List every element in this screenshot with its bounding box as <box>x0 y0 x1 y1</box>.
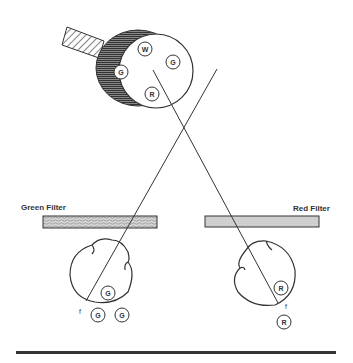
svg-text:G: G <box>118 69 124 76</box>
bottom-rule <box>16 351 336 354</box>
right-inner-circle: R <box>274 281 288 295</box>
svg-text:G: G <box>95 312 101 319</box>
svg-text:G: G <box>105 290 111 297</box>
wheel-circle-g-right: G <box>166 55 180 69</box>
svg-text:R: R <box>281 319 286 326</box>
red-filter-label: Red Filter <box>293 204 330 213</box>
left-outer-circle-2: G <box>115 308 129 322</box>
wheel-circle-w: W <box>138 42 152 56</box>
svg-text:W: W <box>142 46 149 53</box>
wheel-circle-r: R <box>145 87 159 101</box>
light-ray-to-red <box>153 70 278 303</box>
wheel-circle-g-left: G <box>114 65 128 79</box>
red-filter <box>205 216 319 227</box>
svg-text:G: G <box>170 59 176 66</box>
green-filter <box>43 216 157 228</box>
right-outer-circle: R <box>277 315 291 329</box>
green-filter-label: Green Filter <box>21 203 66 212</box>
svg-text:G: G <box>119 312 125 319</box>
left-inner-circle: G <box>101 286 115 300</box>
right-focus-label: f <box>285 303 287 310</box>
right-cell <box>234 241 295 306</box>
color-filter-diagram: W G G R G f G G R f R <box>0 0 353 363</box>
wheel-axle <box>62 27 104 58</box>
svg-text:R: R <box>278 285 283 292</box>
left-outer-circle-1: G <box>91 308 105 322</box>
left-focus-label: f <box>79 308 81 315</box>
svg-text:R: R <box>149 91 154 98</box>
